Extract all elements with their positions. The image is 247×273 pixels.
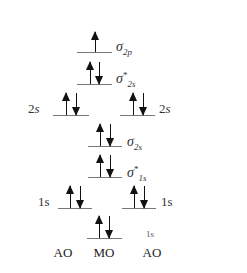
orbital-letter: s [166,101,171,116]
electron-up-arrow-icon [90,62,91,84]
label-sigma-star-1s: σ*1s [127,166,146,179]
electron-down-arrow-icon [99,62,100,84]
label-ao-left-1s: 1s [38,195,50,208]
level-sigma-2s [88,146,122,147]
column-label-left-ao: AO [54,246,73,259]
sigma-symbol: σ [116,39,123,54]
column-label-right-ao: AO [143,246,162,259]
orbital-subscript: 2s [134,142,142,152]
mo-diagram: σ2p σ*2s 2s 2s σ2s σ*1s 1s 1s [0,0,247,273]
electron-up-arrow-icon [66,93,67,115]
orbital-letter: s [45,194,50,209]
level-ao-left-1s [58,208,92,209]
electron-up-arrow-icon [99,216,100,238]
electron-up-arrow-icon [133,93,134,115]
orbital-subscript: 1s [138,173,146,183]
orbital-subscript: 2p [123,47,132,57]
electron-down-arrow-icon [143,93,144,115]
electron-up-arrow-icon [100,155,101,177]
level-ao-right-1s [122,208,156,209]
electron-down-arrow-icon [109,216,110,238]
column-label-mo: MO [94,246,115,259]
sigma-symbol: σ [116,71,123,86]
sigma-symbol: σ [127,134,134,149]
orbital-subscript: 2s [127,79,135,89]
electron-down-arrow-icon [110,124,111,146]
sigma-symbol: σ [127,165,134,180]
label-sigma-star-2s: σ*2s [116,72,135,85]
orbital-letter: s [35,101,40,116]
level-ao-left-2s [53,115,89,116]
label-ao-right-1s: 1s [161,195,173,208]
label-sigma-2s: σ2s [127,135,142,148]
level-sigma-2p [77,52,112,53]
electron-up-arrow-icon [134,186,135,208]
level-sigma-star-1s [88,177,122,178]
electron-down-arrow-icon [76,93,77,115]
electron-down-arrow-icon [80,186,81,208]
electron-down-arrow-icon [144,186,145,208]
electron-down-arrow-icon [110,155,111,177]
label-ao-right-2s: 2s [159,102,171,115]
label-sigma-2p: σ2p [116,40,132,53]
electron-up-arrow-icon [100,124,101,146]
electron-up-arrow-icon [70,186,71,208]
level-ao-right-2s [120,115,155,116]
label-sigma-1s-fragment: 1s [146,230,154,239]
label-ao-left-2s: 2s [28,102,40,115]
electron-up-arrow-icon [95,32,96,52]
orbital-letter: s [168,194,173,209]
